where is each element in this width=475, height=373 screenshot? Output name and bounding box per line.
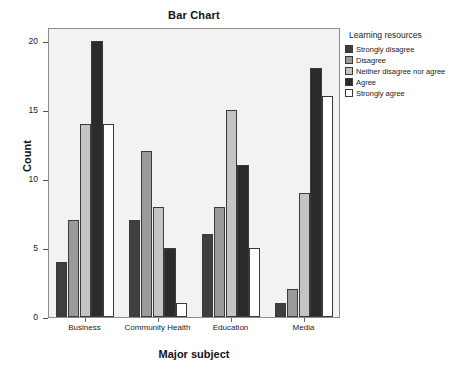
y-axis-tick: 0 bbox=[0, 318, 48, 319]
x-axis-tick-mark bbox=[85, 318, 86, 322]
bar bbox=[299, 193, 310, 317]
y-axis-tick-label: 15 bbox=[29, 105, 38, 115]
bar bbox=[322, 96, 333, 317]
plot-area bbox=[48, 28, 340, 318]
y-axis-tick-mark bbox=[43, 42, 48, 43]
y-axis-tick-label: 5 bbox=[33, 243, 38, 253]
legend: Learning resources Strongly disagreeDisa… bbox=[345, 30, 473, 99]
legend-item-label: Neither disagree nor agree bbox=[356, 67, 445, 76]
x-axis-tick-mark bbox=[231, 318, 232, 322]
bar bbox=[176, 303, 187, 317]
legend-item-label: Disagree bbox=[356, 56, 386, 65]
bar bbox=[287, 289, 298, 317]
y-axis-title: Count bbox=[21, 121, 33, 191]
bar bbox=[153, 207, 164, 317]
y-axis-tick-mark bbox=[43, 318, 48, 319]
legend-swatch bbox=[345, 78, 353, 86]
bar bbox=[56, 262, 67, 317]
bar bbox=[249, 248, 260, 317]
legend-title: Learning resources bbox=[349, 30, 473, 40]
x-axis-category-label: Business bbox=[48, 323, 121, 332]
x-axis-tick-mark bbox=[304, 318, 305, 322]
x-axis-category-label: Community Health bbox=[121, 323, 194, 332]
legend-item-label: Agree bbox=[356, 78, 376, 87]
bar bbox=[164, 248, 175, 317]
y-axis-tick-mark bbox=[43, 111, 48, 112]
y-axis-tick-label: 0 bbox=[33, 312, 38, 322]
legend-item-label: Strongly disagree bbox=[356, 45, 414, 54]
bar bbox=[226, 110, 237, 317]
x-axis-tick-mark bbox=[158, 318, 159, 322]
y-axis-tick-mark bbox=[43, 180, 48, 181]
bar bbox=[80, 124, 91, 317]
chart-title: Bar Chart bbox=[48, 9, 340, 21]
legend-swatch bbox=[345, 45, 353, 53]
legend-item: Strongly disagree bbox=[345, 44, 473, 54]
legend-item: Strongly agree bbox=[345, 88, 473, 98]
x-axis-category-label: Media bbox=[267, 323, 340, 332]
legend-swatch bbox=[345, 56, 353, 64]
bars-container bbox=[49, 29, 339, 317]
bar bbox=[129, 220, 140, 317]
bar-chart-figure: Bar Chart 05101520 Count BusinessCommuni… bbox=[0, 0, 475, 373]
bar bbox=[91, 41, 102, 317]
y-axis-tick: 15 bbox=[0, 111, 48, 112]
legend-item: Disagree bbox=[345, 55, 473, 65]
legend-item-label: Strongly agree bbox=[356, 89, 405, 98]
y-axis-tick: 20 bbox=[0, 42, 48, 43]
legend-item: Agree bbox=[345, 77, 473, 87]
x-axis-category-label: Education bbox=[194, 323, 267, 332]
bar bbox=[202, 234, 213, 317]
bar bbox=[275, 303, 286, 317]
legend-item: Neither disagree nor agree bbox=[345, 66, 473, 76]
bar bbox=[310, 68, 321, 317]
bar bbox=[68, 220, 79, 317]
legend-swatch bbox=[345, 67, 353, 75]
y-axis-tick-mark bbox=[43, 249, 48, 250]
bar bbox=[237, 165, 248, 317]
x-axis-title: Major subject bbox=[48, 348, 340, 360]
legend-swatch bbox=[345, 89, 353, 97]
legend-items: Strongly disagreeDisagreeNeither disagre… bbox=[345, 44, 473, 98]
y-axis-tick: 5 bbox=[0, 249, 48, 250]
bar bbox=[141, 151, 152, 317]
y-axis-tick-label: 20 bbox=[29, 36, 38, 46]
bar bbox=[103, 124, 114, 317]
bar bbox=[214, 207, 225, 317]
